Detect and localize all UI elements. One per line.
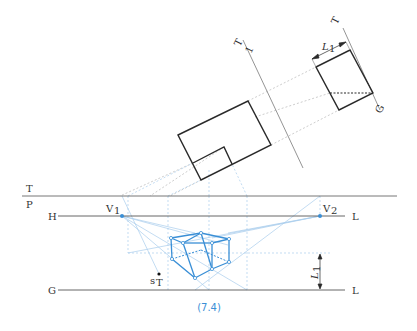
- side-reference-line: [343, 28, 380, 110]
- l1-label-bottom: L: [309, 272, 320, 280]
- label-t: T: [26, 183, 33, 194]
- label-l-ground: L: [352, 285, 359, 296]
- label-v1-sub: 1: [114, 205, 120, 216]
- construction-lines-blue: [122, 163, 330, 290]
- plan-line-label-1: 1: [243, 44, 256, 55]
- plan-line-label-t: T: [232, 37, 245, 48]
- vanishing-point-2: [318, 214, 322, 218]
- side-view: [316, 50, 373, 110]
- l1-label-bottom-sub: 1: [311, 266, 322, 272]
- projection-lines-top: [120, 67, 339, 196]
- perspective-diagram: T 1 L 1 T G T P H L G L V 1 V 2 s T L 1: [0, 0, 417, 331]
- station-point: [157, 272, 160, 275]
- label-v2: V: [322, 203, 331, 214]
- picture-plane-trace: [243, 40, 303, 168]
- label-g: G: [48, 285, 56, 296]
- label-v1: V: [105, 203, 114, 214]
- label-st: s: [150, 275, 155, 286]
- l1-label-top: L: [321, 41, 329, 52]
- side-line-label-g: G: [373, 103, 386, 115]
- label-st-sub: T: [156, 277, 163, 288]
- label-l-horizon: L: [352, 211, 359, 222]
- l1-label-top-sub: 1: [329, 43, 335, 54]
- vanishing-point-1: [120, 214, 124, 218]
- label-h: H: [48, 211, 57, 222]
- perspective-object-vertices: [169, 231, 230, 279]
- label-v2-sub: 2: [331, 205, 337, 216]
- figure-caption: (7.4): [197, 302, 221, 313]
- label-p: P: [26, 199, 33, 210]
- side-line-label-t: T: [329, 15, 342, 26]
- plan-view: [178, 101, 271, 180]
